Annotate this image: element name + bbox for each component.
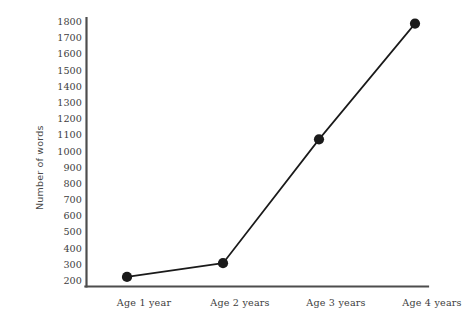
data-point-marker [314,134,324,144]
data-point-marker [410,19,420,29]
data-line [127,24,415,277]
axes-group [85,18,428,287]
data-point-marker [122,272,132,282]
data-point-marker [218,258,228,268]
data-markers-group [122,19,420,283]
